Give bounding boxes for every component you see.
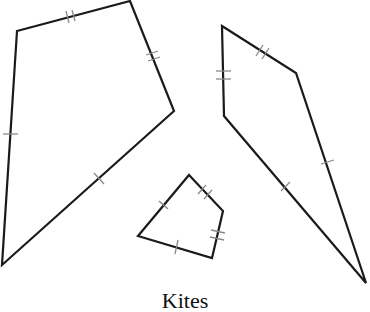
right-kite xyxy=(216,26,366,283)
small-kite-outline xyxy=(138,175,223,258)
small-kite xyxy=(138,175,225,258)
right-kite-outline xyxy=(222,26,366,283)
single-tick-mark xyxy=(321,160,334,164)
diagram-caption: Kites xyxy=(0,290,370,312)
